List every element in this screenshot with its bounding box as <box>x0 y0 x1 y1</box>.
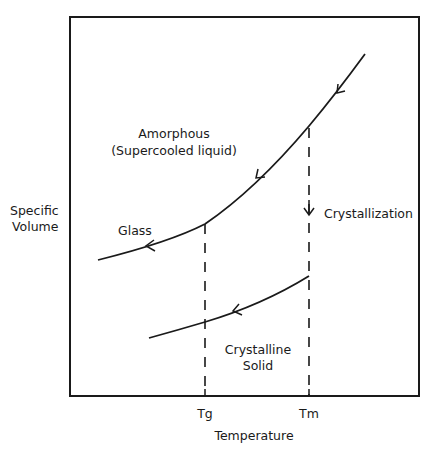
crystallization-label: Crystallization <box>324 206 413 221</box>
specific-volume-vs-temperature-diagram: Amorphous (Supercooled liquid) Glass Cry… <box>0 0 432 455</box>
solid-label: Solid <box>243 358 273 373</box>
y-axis-label-line1: Specific <box>10 203 59 218</box>
tg-tick-label: Tg <box>196 406 213 421</box>
amorphous-label: Amorphous <box>138 126 209 141</box>
x-axis-label: Temperature <box>213 428 293 443</box>
crystalline-curve <box>149 276 309 338</box>
liquid-curve <box>205 54 365 224</box>
glass-label: Glass <box>118 223 152 238</box>
y-axis-label-line2: Volume <box>12 219 59 234</box>
arrow-icon-crystallization <box>304 200 314 215</box>
tm-tick-label: Tm <box>298 406 319 421</box>
crystalline-label: Crystalline <box>225 342 292 357</box>
supercooled-liquid-label: (Supercooled liquid) <box>111 143 237 158</box>
arrow-icon-supercooled <box>256 169 265 178</box>
